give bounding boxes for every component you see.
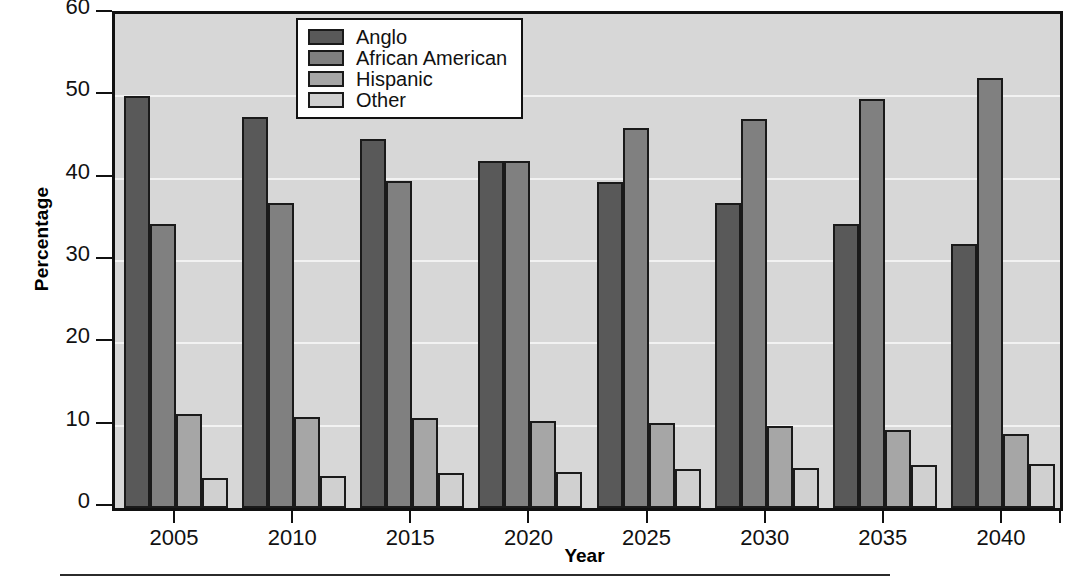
bar-anglo-2015 — [360, 139, 386, 508]
bar-anglo-2010 — [242, 117, 268, 508]
bar-african-american-2015 — [386, 181, 412, 508]
bar-group-2005 — [124, 14, 228, 508]
bar-african-american-2020 — [504, 161, 530, 508]
legend-swatch-icon — [308, 50, 344, 66]
legend-label: African American — [356, 48, 507, 68]
bar-other-2015 — [438, 473, 464, 508]
bar-anglo-2040 — [951, 244, 977, 508]
x-tick-mark — [764, 508, 766, 523]
y-tick-label-60: 60 — [44, 0, 90, 18]
bar-other-2035 — [911, 465, 937, 508]
legend-item-other[interactable]: Other — [308, 89, 507, 110]
y-tick-mark — [96, 92, 112, 94]
bar-african-american-2035 — [859, 99, 885, 508]
y-tick-mark — [96, 10, 112, 12]
legend-label: Anglo — [356, 27, 407, 47]
legend-item-hispanic[interactable]: Hispanic — [308, 68, 507, 89]
x-tick-mark — [1059, 508, 1061, 523]
x-tick-mark — [1000, 508, 1002, 523]
y-tick-label-50: 50 — [44, 78, 90, 100]
bar-hispanic-2010 — [294, 417, 320, 508]
plot-area — [112, 11, 1063, 511]
bar-african-american-2040 — [977, 78, 1003, 508]
bar-group-2030 — [715, 14, 819, 508]
bar-hispanic-2020 — [530, 421, 556, 508]
x-tick-mark — [173, 508, 175, 523]
x-tick-mark — [409, 508, 411, 523]
x-tick-mark — [882, 508, 884, 523]
bar-chart-figure: Percentage 0102030405060 200520102015202… — [0, 0, 1075, 585]
legend-item-anglo[interactable]: Anglo — [308, 26, 507, 47]
y-tick-label-0: 0 — [44, 490, 90, 512]
y-tick-mark — [96, 175, 112, 177]
bar-hispanic-2015 — [412, 418, 438, 508]
y-tick-label-30: 30 — [44, 243, 90, 265]
chart-legend: AngloAfrican AmericanHispanicOther — [296, 18, 523, 119]
bar-other-2020 — [556, 472, 582, 508]
legend-label: Hispanic — [356, 69, 433, 89]
bar-anglo-2025 — [597, 182, 623, 508]
footer-divider — [60, 574, 890, 576]
bar-hispanic-2030 — [767, 426, 793, 508]
bar-anglo-2005 — [124, 96, 150, 508]
bar-other-2010 — [320, 476, 346, 508]
bar-african-american-2025 — [623, 128, 649, 508]
bar-other-2030 — [793, 468, 819, 508]
plot-inner — [115, 14, 1060, 508]
x-axis: 20052010201520202025203020352040 — [112, 508, 1063, 578]
bar-african-american-2010 — [268, 203, 294, 508]
bar-anglo-2035 — [833, 224, 859, 508]
legend-label: Other — [356, 90, 406, 110]
y-tick-mark — [96, 339, 112, 341]
y-tick-label-20: 20 — [44, 325, 90, 347]
x-tick-mark — [527, 508, 529, 523]
bar-anglo-2020 — [478, 161, 504, 508]
y-tick-label-10: 10 — [44, 408, 90, 430]
bar-group-2040 — [951, 14, 1055, 508]
legend-swatch-icon — [308, 29, 344, 45]
bar-other-2005 — [202, 478, 228, 508]
y-tick-mark — [96, 257, 112, 259]
bar-anglo-2030 — [715, 203, 741, 508]
bar-group-2025 — [597, 14, 701, 508]
bar-hispanic-2035 — [885, 430, 911, 508]
x-axis-title: Year — [112, 545, 1057, 567]
y-tick-mark — [96, 504, 112, 506]
x-tick-mark — [291, 508, 293, 523]
bar-hispanic-2025 — [649, 423, 675, 508]
bar-african-american-2005 — [150, 224, 176, 508]
bar-other-2025 — [675, 469, 701, 508]
legend-swatch-icon — [308, 92, 344, 108]
bar-group-2035 — [833, 14, 937, 508]
legend-swatch-icon — [308, 71, 344, 87]
x-tick-mark — [646, 508, 648, 523]
bar-hispanic-2005 — [176, 414, 202, 508]
bar-african-american-2030 — [741, 119, 767, 508]
y-axis-tick-labels: 0102030405060 — [44, 0, 90, 520]
legend-item-african-american[interactable]: African American — [308, 47, 507, 68]
y-tick-mark — [96, 422, 112, 424]
bar-hispanic-2040 — [1003, 434, 1029, 508]
y-tick-label-40: 40 — [44, 161, 90, 183]
bar-other-2040 — [1029, 464, 1055, 508]
